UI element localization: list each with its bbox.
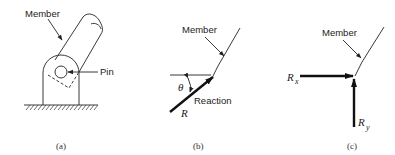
panel-c: Member R x R y (c) [286, 27, 384, 151]
pin-bracket [43, 55, 79, 105]
reaction-label: Reaction [194, 95, 232, 106]
theta-label: θ [178, 81, 184, 93]
ry-label: R y [357, 116, 370, 132]
member-label-b: Member [182, 24, 217, 35]
member-a [55, 14, 102, 72]
svg-text:R: R [357, 116, 365, 128]
member-leader-a [48, 19, 62, 40]
caption-b: (b) [193, 141, 204, 151]
member-b [218, 28, 240, 66]
member-leader-b [205, 37, 224, 56]
member-label-a: Member [25, 8, 60, 19]
svg-text:y: y [365, 123, 370, 132]
caption-a: (a) [56, 141, 66, 151]
svg-text:R: R [286, 71, 294, 83]
pin-icon [55, 66, 67, 78]
figure-canvas: Member Pin (a) θ Member Reaction R (b) M… [0, 0, 395, 155]
ground-support [24, 105, 98, 110]
panel-a: Member Pin (a) [24, 8, 114, 151]
force-r-label: R [180, 107, 188, 119]
caption-c: (c) [347, 141, 357, 151]
member-end [48, 72, 79, 88]
rx-label: R x [286, 71, 299, 86]
member-c [362, 27, 384, 62]
angle-arc [188, 78, 191, 92]
member-label-c: Member [322, 27, 357, 38]
svg-text:x: x [294, 77, 299, 86]
panel-b: θ Member Reaction R (b) [170, 24, 240, 151]
pin-label: Pin [100, 66, 114, 77]
member-leader-c [343, 40, 361, 58]
